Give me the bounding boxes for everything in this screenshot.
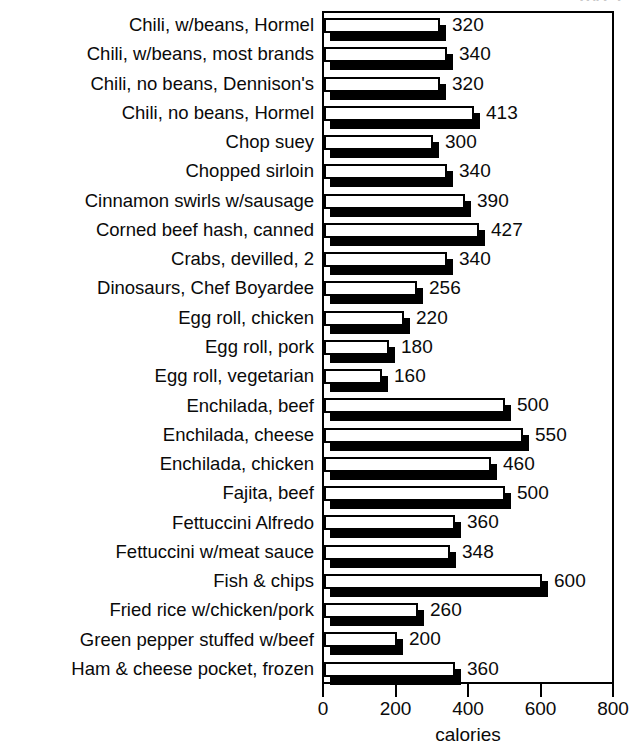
bar-row: 256 bbox=[324, 280, 612, 309]
bar-row: 413 bbox=[324, 105, 612, 134]
bar bbox=[324, 632, 397, 647]
bar-value-label: 360 bbox=[467, 511, 499, 533]
page-header-artifact: PAGE bbox=[580, 0, 629, 1]
category-label: Chili, no beans, Hormel bbox=[0, 103, 314, 123]
bar bbox=[324, 77, 440, 92]
bar-value-label: 460 bbox=[503, 453, 535, 475]
category-label: Fettuccini Alfredo bbox=[0, 513, 314, 533]
category-label: Egg roll, vegetarian bbox=[0, 366, 314, 386]
bar-row: 320 bbox=[324, 17, 612, 46]
bar-row: 320 bbox=[324, 76, 612, 105]
bar-value-label: 260 bbox=[430, 599, 462, 621]
x-axis-tick bbox=[612, 684, 614, 697]
bar-row: 220 bbox=[324, 310, 612, 339]
bar-value-label: 180 bbox=[401, 336, 433, 358]
x-axis-tick bbox=[540, 684, 542, 697]
bar-value-label: 348 bbox=[462, 541, 494, 563]
x-axis-tick bbox=[322, 684, 324, 697]
bar-row: 260 bbox=[324, 602, 612, 631]
category-label: Egg roll, pork bbox=[0, 337, 314, 357]
bar-row: 550 bbox=[324, 427, 612, 456]
category-label: Fajita, beef bbox=[0, 483, 314, 503]
bar bbox=[324, 486, 505, 501]
calories-bar-chart: PAGE Chili, w/beans, HormelChili, w/bean… bbox=[0, 0, 637, 751]
category-label: Cinnamon swirls w/sausage bbox=[0, 191, 314, 211]
category-label: Fettuccini w/meat sauce bbox=[0, 542, 314, 562]
bar bbox=[324, 340, 389, 355]
category-label: Chili, w/beans, most brands bbox=[0, 44, 314, 64]
bar bbox=[324, 457, 491, 472]
bar bbox=[324, 223, 479, 238]
bar bbox=[324, 428, 523, 443]
bar-value-label: 220 bbox=[416, 307, 448, 329]
bar-value-label: 390 bbox=[477, 190, 509, 212]
category-label: Dinosaurs, Chef Boyardee bbox=[0, 278, 314, 298]
category-label: Chop suey bbox=[0, 132, 314, 152]
bar-value-label: 200 bbox=[409, 628, 441, 650]
bar bbox=[324, 106, 474, 121]
x-axis-tick-label: 0 bbox=[318, 698, 329, 720]
bar bbox=[324, 369, 382, 384]
bar-value-label: 320 bbox=[452, 14, 484, 36]
category-label: Enchilada, chicken bbox=[0, 454, 314, 474]
bars-container: 3203403204133003403904273402562201801605… bbox=[324, 13, 612, 682]
bar bbox=[324, 311, 404, 326]
category-label: Egg roll, chicken bbox=[0, 308, 314, 328]
bar bbox=[324, 47, 447, 62]
category-label: Chili, w/beans, Hormel bbox=[0, 15, 314, 35]
bar-value-label: 320 bbox=[452, 73, 484, 95]
category-label: Corned beef hash, canned bbox=[0, 220, 314, 240]
bar bbox=[324, 18, 440, 33]
x-axis-title: calories bbox=[322, 724, 614, 746]
bar-row: 390 bbox=[324, 193, 612, 222]
bar-value-label: 160 bbox=[394, 365, 426, 387]
bar bbox=[324, 164, 447, 179]
bar-row: 340 bbox=[324, 251, 612, 280]
bar-row: 500 bbox=[324, 485, 612, 514]
x-axis-tick-label: 600 bbox=[525, 698, 557, 720]
bar bbox=[324, 603, 418, 618]
bar-row: 300 bbox=[324, 134, 612, 163]
bar-row: 160 bbox=[324, 368, 612, 397]
bar-row: 340 bbox=[324, 46, 612, 75]
x-axis-tick-label: 200 bbox=[380, 698, 412, 720]
bar-row: 460 bbox=[324, 456, 612, 485]
category-label: Ham & cheese pocket, frozen bbox=[0, 659, 314, 679]
bar bbox=[324, 281, 417, 296]
bar-value-label: 360 bbox=[467, 658, 499, 680]
bar-value-label: 256 bbox=[429, 277, 461, 299]
category-label: Enchilada, cheese bbox=[0, 425, 314, 445]
bar bbox=[324, 194, 465, 209]
bar-row: 500 bbox=[324, 397, 612, 426]
bar-row: 340 bbox=[324, 163, 612, 192]
bar-row: 348 bbox=[324, 544, 612, 573]
bar-value-label: 340 bbox=[459, 160, 491, 182]
plot-area: 3203403204133003403904273402562201801605… bbox=[322, 11, 614, 684]
category-label: Chili, no beans, Dennison's bbox=[0, 74, 314, 94]
bar-value-label: 340 bbox=[459, 43, 491, 65]
bar bbox=[324, 398, 505, 413]
category-label: Chopped sirloin bbox=[0, 161, 314, 181]
category-axis-labels: Chili, w/beans, HormelChili, w/beans, mo… bbox=[0, 11, 318, 684]
bar-value-label: 413 bbox=[486, 102, 518, 124]
bar bbox=[324, 252, 447, 267]
bar-value-label: 427 bbox=[491, 219, 523, 241]
x-axis-tick-label: 800 bbox=[597, 698, 629, 720]
bar-value-label: 600 bbox=[554, 570, 586, 592]
x-axis-tick bbox=[467, 684, 469, 697]
bar bbox=[324, 135, 433, 150]
bar-value-label: 340 bbox=[459, 248, 491, 270]
bar-value-label: 500 bbox=[517, 394, 549, 416]
bar-row: 427 bbox=[324, 222, 612, 251]
bar bbox=[324, 545, 450, 560]
x-axis-tick bbox=[395, 684, 397, 697]
bar bbox=[324, 662, 455, 677]
bar-row: 360 bbox=[324, 514, 612, 543]
x-axis: calories 0200400600800 bbox=[322, 684, 614, 744]
category-label: Crabs, devilled, 2 bbox=[0, 249, 314, 269]
category-label: Fish & chips bbox=[0, 571, 314, 591]
bar-row: 600 bbox=[324, 573, 612, 602]
bar-row: 180 bbox=[324, 339, 612, 368]
bar-value-label: 550 bbox=[535, 424, 567, 446]
bar-value-label: 500 bbox=[517, 482, 549, 504]
